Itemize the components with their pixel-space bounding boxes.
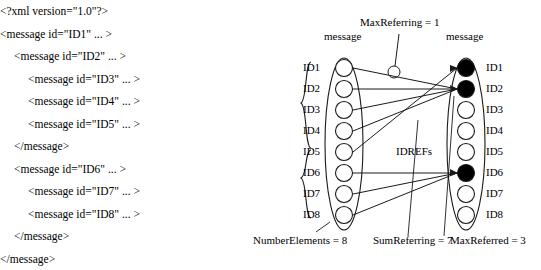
left-node-7[interactable] (336, 186, 353, 203)
sum-referring-pointer (408, 120, 418, 236)
left-node-group (336, 60, 353, 224)
right-node-7[interactable] (458, 186, 475, 203)
xml-line: <message id="ID5" ... > (0, 113, 270, 136)
left-id-label-7: ID7 (303, 187, 320, 199)
number-elements-pointer (316, 222, 330, 232)
left-column-title: message (324, 30, 361, 42)
edge-1-2 (353, 68, 457, 89)
left-id-label-3: ID3 (303, 103, 320, 115)
right-node-3[interactable] (458, 102, 475, 119)
right-id-label-5: ID5 (486, 145, 503, 157)
right-id-label-6: ID6 (486, 166, 503, 178)
left-id-label-6: ID6 (303, 166, 320, 178)
xml-line: <message id="ID1" ... > (0, 23, 270, 46)
right-id-label-7: ID7 (486, 187, 503, 199)
right-id-label-2: ID2 (486, 82, 503, 94)
xml-line: <?xml version="1.0"?> (0, 0, 270, 23)
left-node-3[interactable] (336, 102, 353, 119)
right-node-6[interactable] (458, 165, 475, 182)
right-node-8[interactable] (458, 207, 475, 224)
xml-line: <message id="ID2" ... > (0, 45, 270, 68)
left-node-5[interactable] (336, 144, 353, 161)
max-referring-label: MaxReferring = 1 (360, 16, 440, 28)
xml-line: <message id="ID7" ... > (0, 180, 270, 203)
xml-line: </message> (0, 135, 270, 158)
xml-line: </message> (0, 225, 270, 248)
xml-line: <message id="ID3" ... > (0, 68, 270, 91)
xml-line: <message id="ID4" ... > (0, 90, 270, 113)
right-node-4[interactable] (458, 123, 475, 140)
xml-code-block: <?xml version="1.0"?> <message id="ID1" … (0, 0, 270, 263)
right-node-2[interactable] (458, 81, 475, 98)
left-node-8[interactable] (336, 207, 353, 224)
arrowhead-to-6 (450, 169, 458, 176)
right-node-group (458, 60, 475, 224)
number-elements-label: NumberElements = 8 (253, 234, 347, 246)
right-node-1[interactable] (458, 60, 475, 77)
idrefs-label: IDREFs (396, 145, 432, 157)
edge-7-6 (353, 173, 457, 194)
left-id-label-8: ID8 (303, 208, 320, 220)
right-id-label-4: ID4 (486, 124, 503, 136)
max-referred-pointer (444, 96, 454, 236)
xml-line: <message id="ID8" ... > (0, 203, 270, 226)
edge-3-2 (353, 89, 457, 110)
left-id-label-4: ID4 (303, 124, 320, 136)
right-column-title: message (446, 30, 483, 42)
left-id-label-2: ID2 (303, 82, 320, 94)
right-id-label-3: ID3 (486, 103, 503, 115)
xml-line: </message> (0, 248, 270, 270)
left-node-6[interactable] (336, 165, 353, 182)
left-id-label-1: ID1 (303, 61, 320, 73)
xml-line: <message id="ID6" ... > (0, 158, 270, 181)
idrefs-diagram: message message MaxReferring = 1 ID1 ID2… (268, 0, 541, 263)
arrowhead-to-2a (450, 85, 458, 92)
max-referred-label: MaxReferred = 3 (450, 234, 526, 246)
right-node-5[interactable] (458, 144, 475, 161)
sum-referring-label: SumReferring = 7 (373, 234, 453, 246)
right-id-label-1: ID1 (486, 61, 503, 73)
max-referring-pointer (395, 34, 399, 66)
arrowhead-group (450, 65, 458, 176)
left-node-1[interactable] (336, 60, 353, 77)
right-id-label-8: ID8 (486, 208, 503, 220)
edge-5-1 (353, 68, 457, 152)
left-id-label-5: ID5 (303, 145, 320, 157)
edge-8-6 (353, 173, 457, 215)
edge-group (353, 68, 457, 215)
left-node-2[interactable] (336, 81, 353, 98)
left-node-4[interactable] (336, 123, 353, 140)
